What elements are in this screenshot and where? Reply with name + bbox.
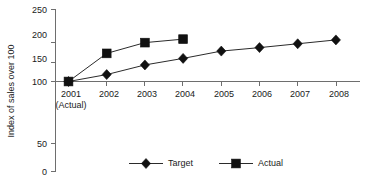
y-tick-label-0: 0 [42,167,47,177]
y-tick-group [51,10,56,172]
series-layer [64,35,341,87]
x-tick-label-2007: 2007 [290,89,310,99]
y-tick-label-200: 200 [32,30,47,40]
legend-label-actual: Actual [258,158,283,168]
x-tick-label-2003: 2003 [137,89,157,99]
chart-legend: Target Actual [129,158,283,168]
series-line-actual [69,39,184,81]
chart-canvas: Index of sales over 100 250 200 150 100 … [0,0,367,186]
y-tick-label-250: 250 [32,5,47,15]
data-point-diamond [217,46,226,56]
legend-label-target: Target [168,158,194,168]
x-tick-group [69,82,337,87]
legend-square-icon [232,159,241,168]
x-tick-label-2006: 2006 [252,89,272,99]
y-tick-label-150: 150 [32,54,47,64]
data-point-diamond [331,35,340,45]
x-tick-sublabel-2001: (Actual) [55,100,86,110]
legend-diamond-icon [141,159,150,169]
legend-item-target[interactable]: Target [129,158,194,168]
data-point-square [141,38,150,47]
x-tick-label-2008: 2008 [329,89,349,99]
data-point-square [179,35,188,44]
series-target [64,35,341,87]
x-tick-label-2002: 2002 [99,89,119,99]
data-point-square [64,77,73,86]
data-point-diamond [102,70,111,80]
x-tick-label-2004: 2004 [175,89,195,99]
x-tick-label-2005: 2005 [214,89,234,99]
data-point-diamond [293,39,302,49]
x-tick-label-2001: 2001 [61,89,81,99]
data-point-square [102,49,111,58]
data-point-diamond [140,60,149,70]
y-tick-label-100: 100 [32,77,47,87]
line-chart: Index of sales over 100 250 200 150 100 … [0,0,367,186]
data-point-diamond [255,43,264,53]
data-point-diamond [179,53,188,63]
y-tick-label-50: 50 [37,139,47,149]
legend-item-actual[interactable]: Actual [219,158,283,168]
y-axis-title: Index of sales over 100 [6,44,16,137]
